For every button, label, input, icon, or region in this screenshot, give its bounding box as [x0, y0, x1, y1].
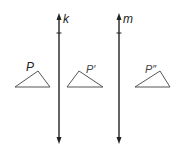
triangle-p-prime [67, 71, 103, 87]
arrowhead-up-icon [57, 13, 62, 20]
triangle-p-double-prime-label: P″ [145, 64, 156, 75]
triangle-p-prime-label: P′ [86, 64, 95, 75]
line-k [57, 13, 62, 144]
diagram-svg [0, 0, 182, 160]
line-m-label: m [123, 13, 133, 25]
triangle-p-label: P [26, 61, 34, 73]
arrowhead-up-icon [117, 13, 122, 20]
arrowhead-down-icon [57, 137, 62, 144]
line-k-label: k [63, 13, 69, 25]
arrowhead-down-icon [117, 137, 122, 144]
reflection-diagram: k m P P′ P″ [0, 0, 182, 160]
line-m [117, 13, 122, 144]
